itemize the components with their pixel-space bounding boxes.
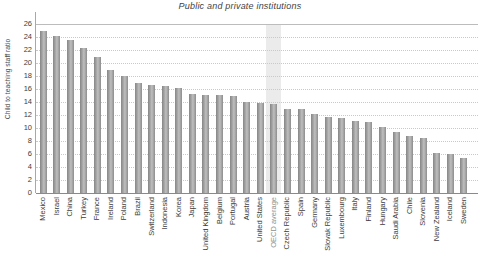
category-label-poland: Poland	[117, 197, 131, 275]
y-tick-label-6: 6	[12, 149, 32, 159]
bar-slovenia	[420, 138, 427, 193]
grid-line-22	[36, 50, 478, 51]
bar-portugal	[230, 96, 237, 193]
category-label-slovenia: Slovenia	[416, 197, 430, 275]
bar-poland	[121, 76, 128, 193]
bar-sweden	[460, 158, 467, 193]
category-label-new-zealand: New Zealand	[430, 197, 444, 275]
bar-chile	[406, 136, 413, 193]
y-tick-label-26: 26	[12, 19, 32, 29]
bar-indonesia	[162, 86, 169, 193]
bar-hungary	[379, 127, 386, 193]
bar-ireland	[107, 70, 114, 194]
x-axis-line	[36, 193, 478, 194]
category-label-portugal: Portugal	[226, 197, 240, 275]
category-label-finland: Finland	[362, 197, 376, 275]
category-label-spain: Spain	[294, 197, 308, 275]
category-label-belgium: Belgium	[213, 197, 227, 275]
bar-korea	[175, 88, 182, 193]
grid-line-18	[36, 76, 478, 77]
category-label-switzerland: Switzerland	[145, 197, 159, 275]
y-tick-label-20: 20	[12, 58, 32, 68]
category-label-united-kingdom: United Kingdom	[199, 197, 213, 275]
y-tick-label-12: 12	[12, 110, 32, 120]
category-label-turkey: Turkey	[77, 197, 91, 275]
category-label-slovak-republic: Slovak Republic	[321, 197, 335, 275]
category-label-israel: Israel	[50, 197, 64, 275]
bar-austria	[243, 102, 250, 193]
category-label-luxembourg: Luxembourg	[335, 197, 349, 275]
category-label-sweden: Sweden	[457, 197, 471, 275]
category-label-china: China	[63, 197, 77, 275]
bar-israel	[53, 36, 60, 193]
category-label-mexico: Mexico	[36, 197, 50, 275]
y-tick-label-24: 24	[12, 32, 32, 42]
y-tick-label-4: 4	[12, 162, 32, 172]
category-label-chile: Chile	[403, 197, 417, 275]
grid-line-20	[36, 63, 478, 64]
category-label-united-states: United States	[253, 197, 267, 275]
y-tick-label-2: 2	[12, 175, 32, 185]
bar-china	[67, 40, 74, 193]
bar-luxembourg	[338, 118, 345, 193]
y-tick-label-14: 14	[12, 97, 32, 107]
bar-finland	[365, 122, 372, 193]
bar-spain	[298, 109, 305, 193]
bar-germany	[311, 114, 318, 193]
y-tick-label-8: 8	[12, 136, 32, 146]
bar-italy	[352, 121, 359, 193]
category-label-austria: Austria	[240, 197, 254, 275]
bar-france	[94, 57, 101, 193]
bar-switzerland	[148, 85, 155, 193]
category-label-saudi-arabia: Saudi Arabia	[389, 197, 403, 275]
y-tick-label-0: 0	[12, 188, 32, 198]
bar-japan	[189, 94, 196, 193]
bar-new-zealand	[433, 153, 440, 193]
category-label-france: France	[90, 197, 104, 275]
category-label-oecd-average: OECD average	[267, 197, 281, 275]
y-tick-label-22: 22	[12, 45, 32, 55]
category-label-germany: Germany	[308, 197, 322, 275]
bar-oecd-average	[270, 104, 277, 193]
bar-slovak-republic	[325, 117, 332, 193]
category-label-ireland: Ireland	[104, 197, 118, 275]
bar-chart: Public and private institutions Child to…	[0, 0, 480, 276]
category-label-italy: Italy	[348, 197, 362, 275]
bar-united-states	[257, 103, 264, 193]
y-tick-label-10: 10	[12, 123, 32, 133]
category-label-iceland: Iceland	[443, 197, 457, 275]
bar-united-kingdom	[202, 95, 209, 193]
bar-brazil	[135, 83, 142, 193]
bar-belgium	[216, 95, 223, 193]
chart-title: Public and private institutions	[0, 1, 480, 11]
grid-line-16	[36, 89, 478, 90]
grid-line-26	[36, 24, 478, 25]
category-label-hungary: Hungary	[376, 197, 390, 275]
category-label-japan: Japan	[185, 197, 199, 275]
bar-czech-republic	[284, 109, 291, 194]
grid-line-24	[36, 37, 478, 38]
category-label-korea: Korea	[172, 197, 186, 275]
y-tick-label-18: 18	[12, 71, 32, 81]
bar-saudi-arabia	[393, 132, 400, 193]
category-label-brazil: Brazil	[131, 197, 145, 275]
category-label-indonesia: Indonesia	[158, 197, 172, 275]
bar-mexico	[40, 31, 47, 194]
bar-iceland	[447, 154, 454, 193]
y-tick-label-16: 16	[12, 84, 32, 94]
bar-turkey	[80, 48, 87, 193]
category-label-czech-republic: Czech Republic	[280, 197, 294, 275]
